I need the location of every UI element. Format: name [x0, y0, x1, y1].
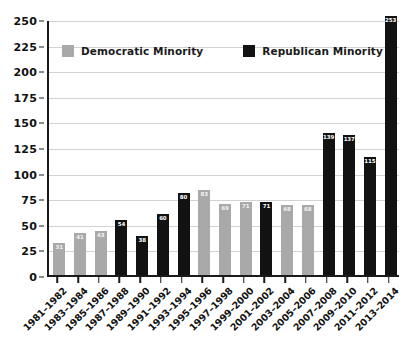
bar-value-label: 71 [242, 204, 249, 210]
bar-value-label: 80 [180, 195, 187, 201]
bar-slot: 80 [173, 21, 194, 275]
bar-slot: 43 [90, 21, 111, 275]
y-tick-mark [39, 277, 44, 278]
bar-value-label: 60 [159, 216, 166, 222]
y-tick-label: 150 [13, 117, 37, 130]
x-tick-mark [222, 277, 224, 283]
x-tick-mark [202, 277, 204, 283]
bar[interactable]: 137 [343, 135, 355, 275]
bar[interactable]: 41 [74, 233, 86, 275]
x-tick-mark [346, 277, 348, 283]
y-tick-label: 50 [21, 219, 37, 232]
bar-slot: 68 [277, 21, 298, 275]
bar[interactable]: 80 [178, 193, 190, 275]
bar-value-label: 137 [344, 137, 355, 143]
bar[interactable]: 60 [157, 214, 169, 275]
bar-value-label: 54 [118, 222, 125, 228]
x-tick-label: 1997–1998 [187, 285, 235, 333]
y-axis: 0255075100125150175200225250 [0, 21, 44, 277]
y-tick-mark [39, 72, 44, 73]
bar[interactable]: 71 [240, 202, 252, 275]
y-tick-mark [39, 149, 44, 150]
x-tick-mark [305, 277, 307, 283]
bar-slot: 54 [111, 21, 132, 275]
bar-value-label: 43 [97, 233, 104, 239]
y-tick-mark [39, 123, 44, 124]
x-tick-mark [57, 277, 59, 283]
y-tick-mark [39, 225, 44, 226]
x-tick-mark [77, 277, 79, 283]
bar[interactable]: 54 [115, 220, 127, 275]
bar[interactable]: 43 [95, 231, 107, 275]
y-tick-label: 250 [13, 15, 37, 28]
y-tick-mark [39, 174, 44, 175]
bar-slot: 137 [339, 21, 360, 275]
bar-slot: 83 [194, 21, 215, 275]
x-tick-mark [181, 277, 183, 283]
bar-slot: 69 [215, 21, 236, 275]
y-tick-mark [39, 200, 44, 201]
x-tick-mark [139, 277, 141, 283]
bar[interactable]: 115 [364, 157, 376, 275]
y-tick-mark [39, 21, 44, 22]
bar-value-label: 69 [221, 206, 228, 212]
x-tick-label: 1985–1986 [63, 285, 111, 333]
bar[interactable]: 38 [136, 236, 148, 275]
bar-value-label: 68 [304, 207, 311, 213]
bar[interactable]: 68 [281, 205, 293, 275]
bar-value-label: 71 [263, 204, 270, 210]
x-tick-mark [119, 277, 121, 283]
y-tick-label: 125 [13, 143, 37, 156]
bar[interactable]: 69 [219, 204, 231, 275]
legend-swatch-republican-icon [243, 45, 255, 57]
y-tick-label: 25 [21, 245, 37, 258]
bar-chart: 0255075100125150175200225250 31414354386… [0, 0, 406, 362]
bar-slot: 68 [297, 21, 318, 275]
bar[interactable]: 83 [198, 190, 210, 275]
bar-slot: 41 [70, 21, 91, 275]
x-tick-label: 1981–1982 [21, 285, 69, 333]
bar-slot: 31 [49, 21, 70, 275]
x-tick-mark [243, 277, 245, 283]
bar[interactable]: 31 [53, 243, 65, 275]
legend-label-republican: Republican Minority [262, 45, 383, 57]
bar-slot: 60 [153, 21, 174, 275]
legend-item-republican: Republican Minority [243, 45, 383, 57]
y-tick-mark [39, 46, 44, 47]
x-tick-label: 2011–2012 [332, 285, 380, 333]
bar[interactable]: 68 [302, 205, 314, 275]
y-tick-label: 175 [13, 91, 37, 104]
legend-item-democratic: Democratic Minority [62, 45, 203, 57]
y-tick-label: 200 [13, 66, 37, 79]
y-tick-label: 0 [29, 271, 37, 284]
bar-value-label: 31 [56, 245, 63, 251]
bar-slot: 71 [256, 21, 277, 275]
x-tick-label: 2005–2006 [270, 285, 318, 333]
x-tick-label: 2003–2004 [249, 285, 297, 333]
bar-value-label: 139 [323, 135, 334, 141]
x-tick-label: 1999–2000 [208, 285, 256, 333]
x-tick-label: 1993–1994 [145, 285, 193, 333]
bars-layer: 31414354386080836971716868139137115253 [49, 21, 399, 275]
bar[interactable]: 139 [323, 133, 335, 275]
x-tick-label: 1983–1984 [42, 285, 90, 333]
bar[interactable]: 71 [260, 202, 272, 275]
x-tick-label: 1991–1992 [125, 285, 173, 333]
y-tick-mark [39, 97, 44, 98]
chart-legend: Democratic Minority Republican Minority [62, 45, 406, 57]
y-tick-label: 75 [21, 194, 37, 207]
x-tick-label: 1987–1988 [83, 285, 131, 333]
x-tick-mark [284, 277, 286, 283]
x-tick-mark [264, 277, 266, 283]
y-tick-label: 100 [13, 168, 37, 181]
bar-slot: 139 [318, 21, 339, 275]
x-tick-label: 2001–2002 [228, 285, 276, 333]
x-tick-mark [326, 277, 328, 283]
bar-slot: 115 [360, 21, 381, 275]
bar-value-label: 253 [385, 18, 396, 24]
y-tick-label: 225 [13, 40, 37, 53]
bar-value-label: 115 [364, 159, 375, 165]
bar-value-label: 41 [76, 235, 83, 241]
bar-value-label: 83 [201, 192, 208, 198]
x-tick-label: 2009–2010 [311, 285, 359, 333]
